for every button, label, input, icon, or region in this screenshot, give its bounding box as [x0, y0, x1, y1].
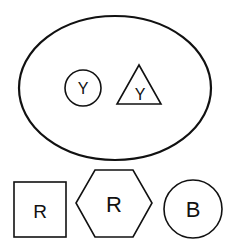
inner-triangle-label: Y — [135, 86, 146, 103]
hexagon-shape: R — [76, 170, 152, 237]
diagram-canvas: Y Y R R B — [0, 0, 234, 248]
inner-circle-label: Y — [78, 80, 89, 97]
container-ellipse — [19, 16, 211, 160]
hexagon-label: R — [106, 192, 122, 217]
inner-circle: Y — [65, 70, 101, 106]
inner-triangle: Y — [117, 65, 161, 104]
outer-circle-label: B — [186, 197, 201, 222]
square-label: R — [33, 201, 47, 222]
square-shape: R — [14, 182, 66, 237]
outer-circle: B — [164, 180, 222, 238]
